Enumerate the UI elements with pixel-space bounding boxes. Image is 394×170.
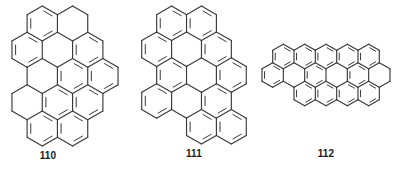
structure-112-label: 112	[258, 148, 394, 160]
structure-110-drawing	[0, 2, 130, 150]
structure-111	[128, 2, 260, 148]
structure-112	[258, 2, 394, 148]
structure-111-drawing	[128, 2, 260, 148]
structure-110	[0, 2, 130, 150]
figure-root: 110 111 112	[0, 0, 394, 170]
structure-110-label: 110	[0, 150, 96, 162]
structure-112-drawing	[258, 2, 394, 148]
structure-111-label: 111	[128, 148, 260, 160]
